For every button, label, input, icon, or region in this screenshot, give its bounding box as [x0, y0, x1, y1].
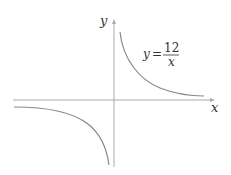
equation-equals: =	[152, 47, 162, 61]
equation-denominator: x	[168, 55, 175, 69]
curve-branch-first-quadrant	[120, 32, 204, 96]
hyperbola-graph: y x y = 12 x	[0, 0, 231, 175]
y-axis-label: y	[99, 13, 108, 28]
equation-lhs: y	[142, 47, 150, 61]
y-axis-arrow-icon	[112, 19, 116, 24]
equation-numerator: 12	[164, 41, 179, 55]
equation-label: y = 12 x	[142, 41, 179, 69]
x-axis-label: x	[211, 100, 219, 115]
curve-branch-third-quadrant	[14, 107, 109, 165]
